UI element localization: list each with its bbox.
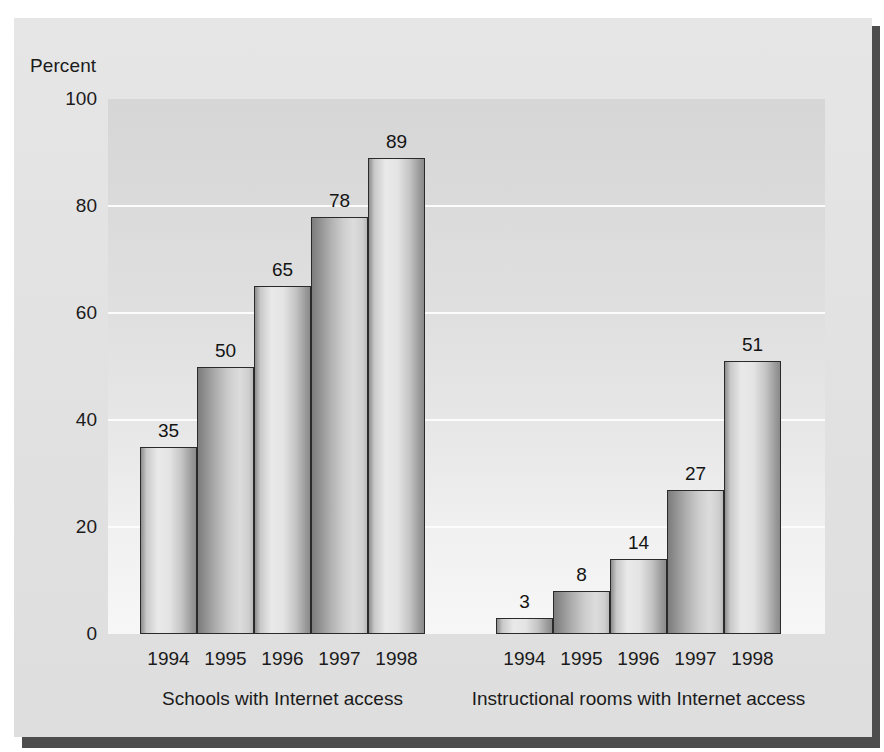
bar bbox=[724, 361, 781, 634]
x-axis-tick-label: 1998 bbox=[718, 648, 787, 670]
bar bbox=[140, 447, 197, 634]
bar bbox=[667, 490, 724, 634]
bar bbox=[197, 367, 254, 635]
bar bbox=[368, 158, 425, 634]
y-axis-tick-label: 60 bbox=[9, 302, 97, 324]
bar bbox=[610, 559, 667, 634]
bar-value-label: 51 bbox=[704, 334, 801, 356]
bar bbox=[254, 286, 311, 634]
bar-value-label: 89 bbox=[348, 131, 445, 153]
y-axis-tick-label: 40 bbox=[9, 409, 97, 431]
bar bbox=[553, 591, 610, 634]
bar bbox=[496, 618, 553, 634]
group-caption: Instructional rooms with Internet access bbox=[436, 688, 841, 710]
y-axis-ticks: 020406080100 bbox=[0, 0, 97, 752]
y-axis-tick-label: 100 bbox=[9, 88, 97, 110]
gridline bbox=[108, 205, 825, 207]
x-axis-tick-label: 1998 bbox=[362, 648, 431, 670]
group-caption: Schools with Internet access bbox=[80, 688, 485, 710]
gridline bbox=[108, 312, 825, 314]
y-axis-tick-label: 0 bbox=[9, 623, 97, 645]
chart-figure: Percent 020406080100 355065788938142751 … bbox=[0, 0, 884, 752]
y-axis-tick-label: 80 bbox=[9, 195, 97, 217]
y-axis-tick-label: 20 bbox=[9, 516, 97, 538]
bar bbox=[311, 217, 368, 634]
